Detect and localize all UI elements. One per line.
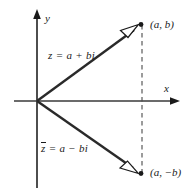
z-conjugate-equation-label: z = a − bi	[41, 143, 88, 154]
complex-plane-figure: y x z = a + bi z = a − bi (a, b) (a, −b)	[0, 0, 194, 195]
point-label-a-b: (a, b)	[150, 19, 174, 30]
z-vector	[37, 22, 143, 101]
z-conjugate-symbol: z	[41, 143, 46, 154]
y-axis-label: y	[45, 13, 50, 24]
z-conjugate-vector	[37, 101, 143, 176]
x-axis-label: x	[164, 83, 169, 94]
z-conjugate-equation-rhs: = a − bi	[46, 142, 89, 154]
z-equation-rhs: = a + bi	[53, 49, 96, 61]
z-equation-label: z = a + bi	[48, 50, 95, 61]
point-label-a-minus-b: (a, −b)	[150, 167, 181, 178]
